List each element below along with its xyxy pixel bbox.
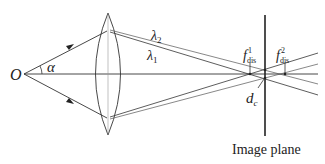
angle-label: α	[47, 59, 56, 75]
refracted-ray-lambda2-lower	[110, 64, 318, 119]
chromatic-aberration-diagram: O α λ2 λ1 f1dis f2dis dc Image plane	[0, 0, 325, 164]
lambda2-sub: 2	[157, 35, 162, 45]
diagram-svg: O α λ2 λ1 f1dis f2dis dc Image plane	[0, 0, 325, 164]
focus1-sup: 1	[248, 46, 252, 55]
lambda1-sub: 1	[153, 55, 158, 65]
lambda1-label: λ1	[146, 48, 158, 65]
dc-lower-point	[264, 77, 267, 80]
lambda2-label: λ2	[150, 28, 162, 45]
angle-arc	[40, 66, 42, 74]
dc-pointer	[258, 79, 264, 88]
focus1-point	[249, 73, 252, 76]
incoming-ray-lower	[24, 74, 107, 118]
focus2-sub: dis	[280, 56, 289, 65]
image-plane-label: Image plane	[232, 142, 301, 157]
focus2-label: f2dis	[276, 46, 289, 65]
focus2-sup: 2	[281, 46, 285, 55]
dc-upper-point	[264, 69, 267, 72]
incoming-ray-upper	[24, 31, 107, 74]
origin-label: O	[10, 66, 22, 83]
dc-sub: c	[254, 98, 258, 108]
lambda2-main: λ	[150, 28, 157, 43]
focus1-label: f1dis	[243, 46, 256, 65]
focus2-point	[284, 73, 287, 76]
arrow-head-lower	[66, 98, 74, 104]
dc-label: dc	[246, 90, 258, 108]
focus1-sub: dis	[247, 56, 256, 65]
lambda1-main: λ	[146, 48, 153, 63]
